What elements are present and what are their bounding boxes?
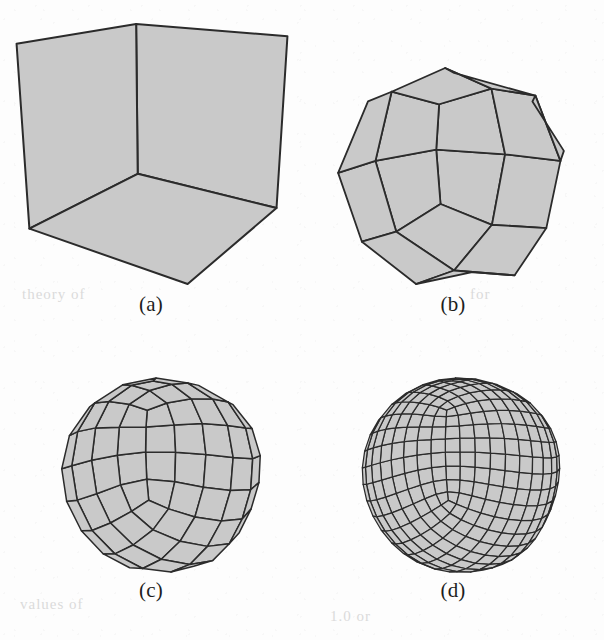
mesh-face xyxy=(492,154,561,228)
mesh-face xyxy=(460,438,475,452)
mesh-face xyxy=(445,452,460,466)
mesh-face xyxy=(446,480,460,493)
mesh-face xyxy=(417,453,432,470)
mesh-face xyxy=(146,425,176,452)
panel-c-caption: (c) xyxy=(0,578,302,603)
mesh-face xyxy=(519,456,532,474)
mesh-face xyxy=(557,455,560,471)
mesh-face xyxy=(431,439,445,454)
mesh-face xyxy=(532,457,543,474)
mesh-face xyxy=(475,438,491,453)
panel-b-caption: (b) xyxy=(302,292,604,317)
mesh-face xyxy=(445,438,460,452)
panel-c xyxy=(36,372,286,578)
panel-b xyxy=(326,62,576,290)
panel-d xyxy=(336,372,586,578)
panel-b-render xyxy=(326,62,576,290)
mesh-face xyxy=(432,466,447,481)
mesh-face xyxy=(445,426,460,439)
panel-a-render xyxy=(8,18,296,290)
mesh-face xyxy=(446,466,461,480)
panel-d-render xyxy=(336,372,586,578)
mesh-faces xyxy=(362,378,559,572)
mesh-face xyxy=(403,455,417,473)
figure-subdivision-sequence: (a) (b) (c) (d) theory offorvalues of1.0… xyxy=(0,0,604,640)
mesh-face xyxy=(203,455,233,491)
mesh-face xyxy=(503,471,519,489)
mesh-face xyxy=(431,427,446,440)
panel-a xyxy=(8,18,296,290)
mesh-face xyxy=(230,457,252,490)
mesh-face xyxy=(146,452,176,482)
mesh-face xyxy=(459,425,474,439)
mesh-face xyxy=(391,457,405,477)
mesh-faces xyxy=(17,24,288,284)
mesh-face xyxy=(431,452,446,467)
panel-c-render xyxy=(36,372,286,578)
mesh-face xyxy=(504,438,519,455)
mesh-faces xyxy=(338,68,564,284)
mesh-face xyxy=(403,440,417,457)
mesh-face xyxy=(174,424,206,455)
mesh-face xyxy=(475,452,490,469)
panel-d-caption: (d) xyxy=(302,578,604,603)
mesh-face xyxy=(490,438,506,454)
mesh-faces xyxy=(62,378,260,572)
mesh-face xyxy=(543,458,551,474)
mesh-face xyxy=(362,467,366,484)
mesh-face xyxy=(460,466,475,482)
mesh-face xyxy=(505,454,520,472)
mesh-face xyxy=(117,427,146,455)
mesh-face xyxy=(380,460,392,480)
mesh-face xyxy=(490,453,505,471)
mesh-face xyxy=(460,452,475,467)
mesh-face xyxy=(417,440,431,456)
mesh-face xyxy=(391,442,404,460)
panel-a-caption: (a) xyxy=(0,292,302,317)
ghost-text-3: 1.0 or xyxy=(330,608,371,625)
